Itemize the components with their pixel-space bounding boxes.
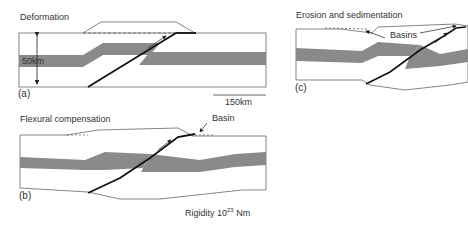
panel-a-label: (a) xyxy=(18,89,30,99)
panel-a-deformation xyxy=(19,22,266,95)
panel-c-label: (c) xyxy=(295,83,307,93)
panel-c-erosion xyxy=(296,24,468,90)
scale-label: 150km xyxy=(225,98,252,107)
crust-band-footwall xyxy=(139,52,266,65)
basins-label: Basins xyxy=(390,31,417,40)
rigidity-label: Rigidity 1023 Nm xyxy=(185,207,250,218)
panel-c-title: Erosion and sedimentation xyxy=(296,11,403,20)
panel-b-flexural xyxy=(20,123,266,199)
panel-b-title: Flexural compensation xyxy=(20,115,111,124)
thickness-label: 50km xyxy=(22,57,44,66)
panel-b-label: (b) xyxy=(19,191,31,201)
basin-label: Basin xyxy=(212,114,235,123)
panel-a-title: Deformation xyxy=(20,13,69,22)
